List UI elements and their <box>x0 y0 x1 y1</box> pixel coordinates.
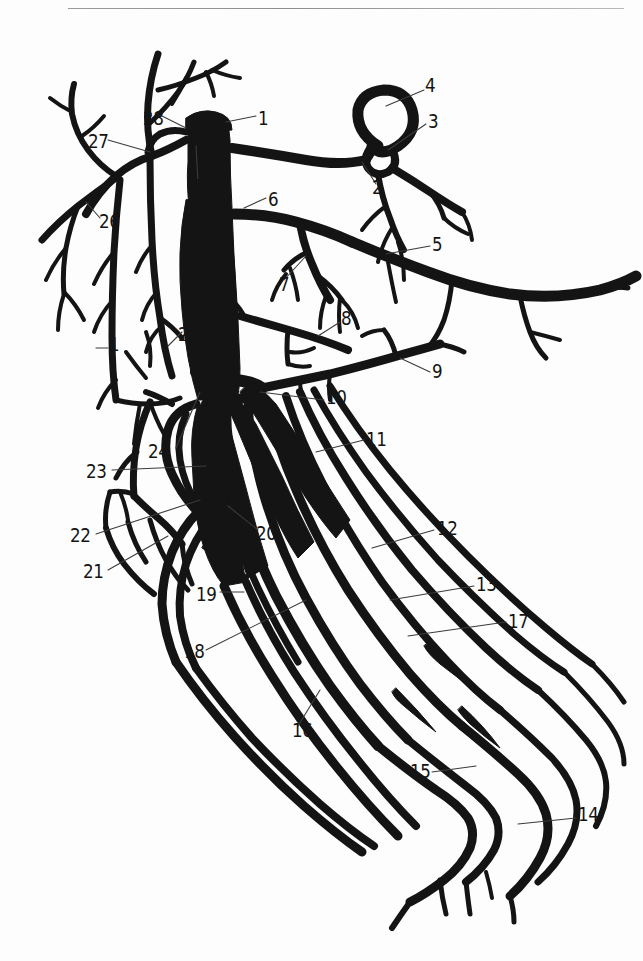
callout-label-15: 15 <box>410 762 431 781</box>
leaf-left-lower-c <box>150 402 164 434</box>
callout-label-1b: 1 <box>193 177 203 196</box>
callout-label-26: 26 <box>99 212 120 231</box>
callout-label-13: 13 <box>476 575 497 594</box>
branch-3-right <box>392 168 462 212</box>
leader-27 <box>108 140 150 152</box>
spindle-a <box>424 642 472 688</box>
callout-label-10: 10 <box>326 388 347 407</box>
callout-label-11: 11 <box>366 430 387 449</box>
branch-26-d <box>64 292 84 320</box>
callout-label-27: 27 <box>88 132 109 151</box>
callout-label-19: 19 <box>196 585 217 604</box>
callout-label-14: 14 <box>578 805 599 824</box>
vertebral-loop-4 <box>358 90 414 152</box>
leader-5 <box>386 246 430 254</box>
callout-label-1a: 1 <box>258 109 268 128</box>
branch-6 <box>234 214 352 242</box>
callout-label-4: 4 <box>425 76 435 95</box>
callout-label-7: 7 <box>279 275 289 294</box>
branch-5-tip-a <box>598 287 628 290</box>
callout-label-23: 23 <box>86 462 107 481</box>
callout-label-8: 8 <box>341 309 351 328</box>
branch-5-c <box>520 296 546 358</box>
callout-label-6: 6 <box>268 190 278 209</box>
branch-21-a <box>128 522 146 562</box>
branch-9-b <box>362 330 384 336</box>
branch-3-down-a <box>362 206 386 230</box>
branch-2 <box>232 148 366 163</box>
branch-8-main <box>240 316 348 350</box>
branch-7-g <box>320 296 326 328</box>
callout-label-21: 21 <box>83 562 104 581</box>
leader-1a <box>226 116 256 122</box>
branch-8-a <box>287 330 288 364</box>
callout-label-2: 2 <box>372 178 382 197</box>
leaf-left-lower-d <box>126 352 146 378</box>
branch-8-c <box>288 364 310 367</box>
callout-label-9: 9 <box>432 362 442 381</box>
figure-page: 2812716264325789125102411231222202113191… <box>0 0 643 961</box>
callout-label-20: 20 <box>256 524 277 543</box>
branch-3-right-c <box>462 212 472 240</box>
callout-label-25: 25 <box>178 325 199 344</box>
branch-22-b <box>106 492 111 528</box>
branch-3-right-b <box>444 218 468 234</box>
callout-label-17: 17 <box>508 612 529 631</box>
callout-label-16: 16 <box>292 721 313 740</box>
callout-label-24: 24 <box>148 442 169 461</box>
trunk-top <box>186 111 232 134</box>
branch-5-b <box>428 280 452 348</box>
distal-tip-a <box>392 902 410 928</box>
callout-label-18: 18 <box>184 642 205 661</box>
leader-6 <box>244 198 266 208</box>
branch-8-b <box>290 348 314 353</box>
distal-tip-e <box>510 896 514 922</box>
callout-label-28: 28 <box>143 109 164 128</box>
leader-28 <box>162 116 186 128</box>
vessel-14-tip <box>592 664 624 702</box>
branch-27-e <box>212 70 240 78</box>
callout-label-1c: 1 <box>109 335 119 354</box>
branch-3-down-d <box>388 262 396 302</box>
leader-23 <box>112 466 206 470</box>
callout-label-5: 5 <box>432 235 442 254</box>
distal-tip-c <box>466 882 470 914</box>
branch-mid-left <box>150 158 172 376</box>
distal-tip-d <box>486 872 492 898</box>
callout-label-3: 3 <box>428 112 438 131</box>
branch-9-a <box>384 330 396 356</box>
branch-22-c <box>120 492 128 520</box>
callout-label-22: 22 <box>70 526 91 545</box>
branch-26-c <box>58 294 64 330</box>
callout-label-12: 12 <box>437 519 458 538</box>
leader-9 <box>400 358 430 372</box>
distal-tip-b <box>440 880 446 914</box>
branch-27-d <box>206 72 214 96</box>
branch-7-e <box>339 298 340 332</box>
